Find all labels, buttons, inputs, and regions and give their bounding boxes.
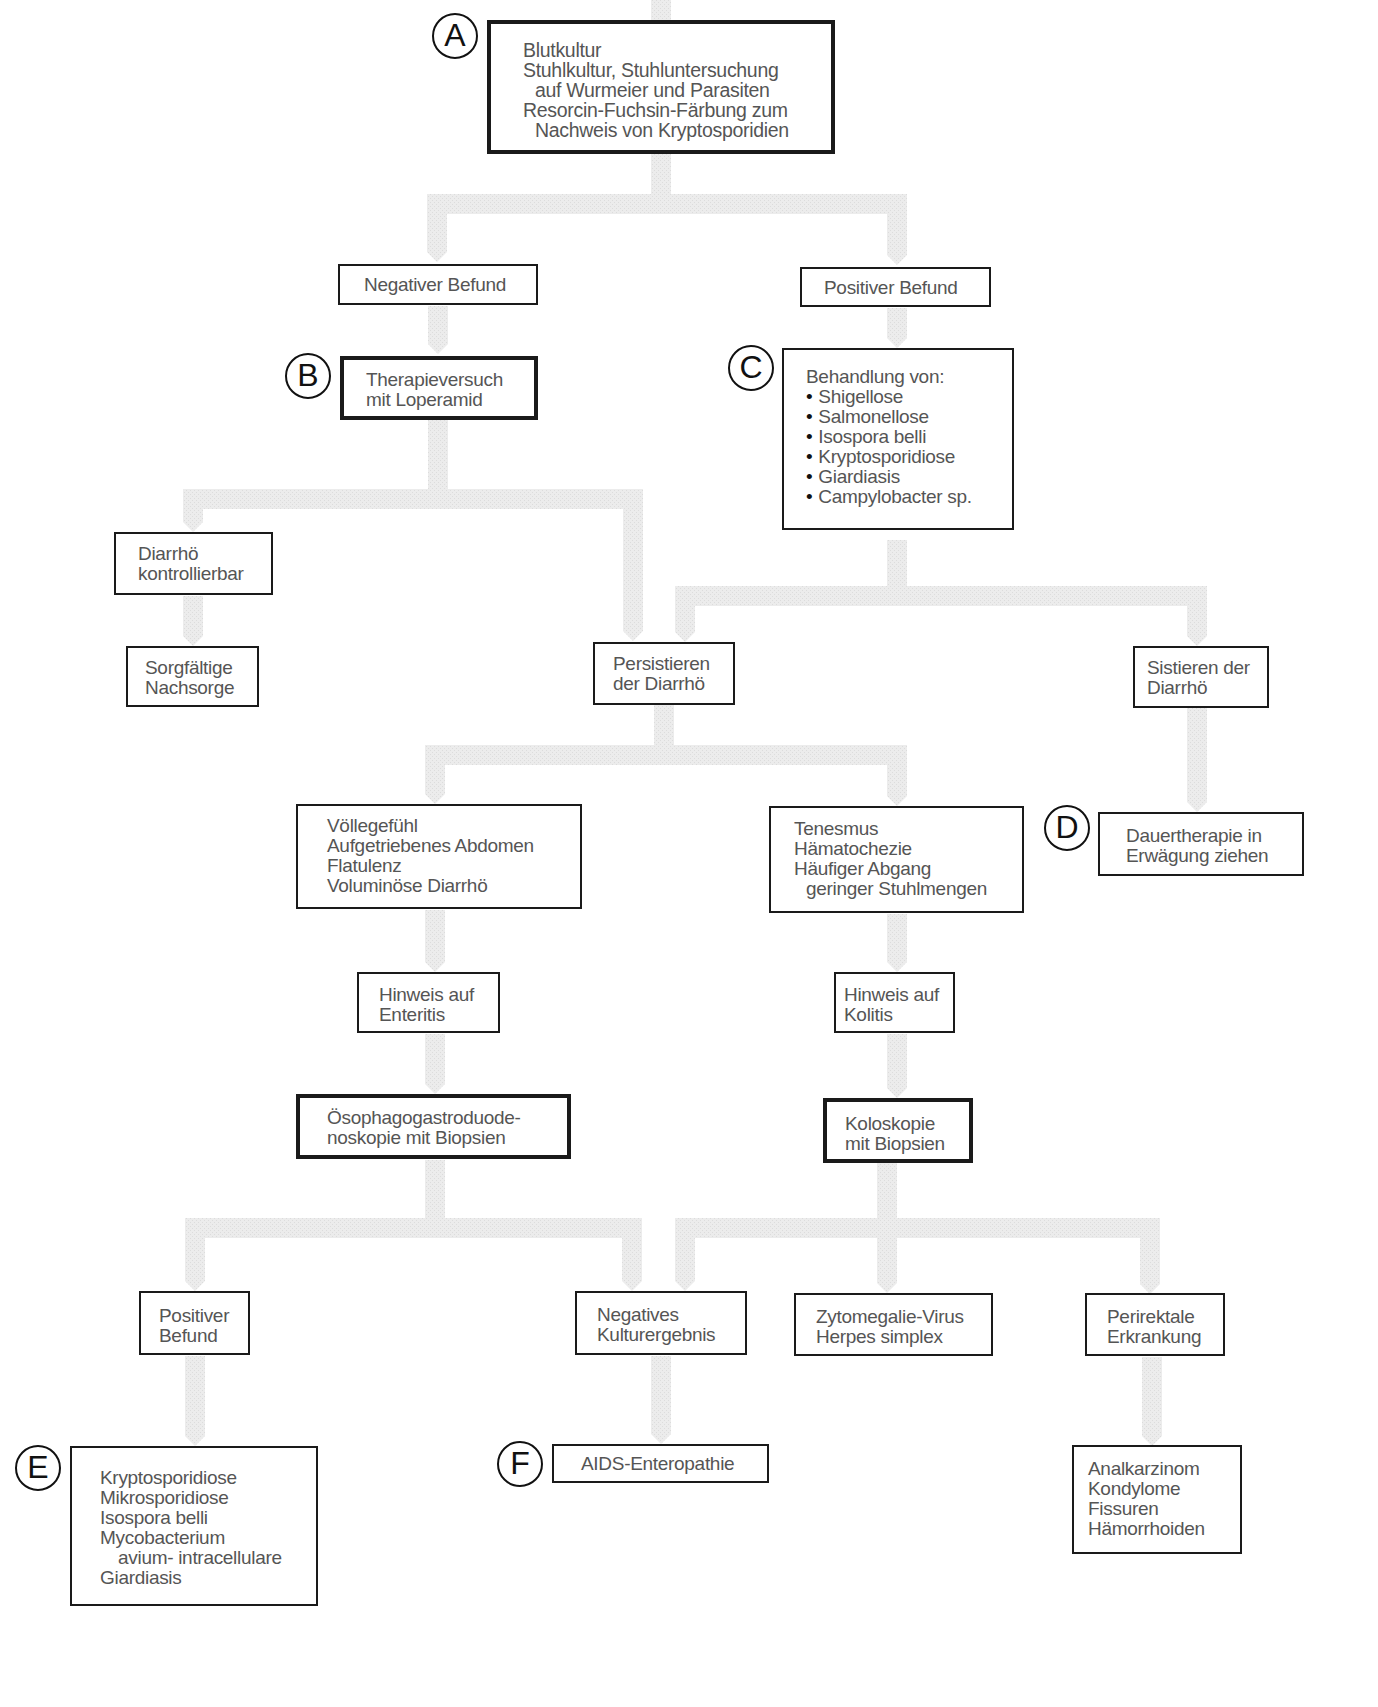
node-text: Stuhlkultur, Stuhluntersuchung (523, 60, 831, 80)
node-positive-finding-biopsy: Positiver Befund (139, 1291, 250, 1355)
node-text: AIDS-Enteropathie (581, 1454, 767, 1474)
node-text: Herpes simplex (816, 1327, 991, 1347)
marker-e: E (15, 1445, 61, 1491)
node-text: Sorgfältige (145, 658, 257, 678)
node-enteritis-symptoms: Völlegefühl Aufgetriebenes Abdomen Flatu… (296, 804, 582, 909)
node-aids-enteropathy: AIDS-Enteropathie (552, 1444, 769, 1483)
node-text: Koloskopie (845, 1114, 969, 1134)
marker-a: A (432, 13, 478, 59)
node-negative-culture: Negatives Kulturergebnis (575, 1291, 747, 1355)
node-text: noskopie mit Biopsien (327, 1128, 567, 1148)
marker-f: F (497, 1441, 543, 1487)
marker-d: D (1044, 805, 1090, 851)
node-text: Kolitis (844, 1005, 953, 1025)
node-text: Kryptosporidiose (100, 1468, 316, 1488)
node-text: Mikrosporidiose (100, 1488, 316, 1508)
node-text: kontrollierbar (138, 564, 271, 584)
node-diagnostics: Blutkultur Stuhlkultur, Stuhluntersuchun… (487, 20, 835, 154)
node-text: mit Loperamid (366, 390, 534, 410)
node-text: Diarrhö (1147, 678, 1267, 698)
node-text: Perirektale (1107, 1307, 1223, 1327)
node-text: Dauertherapie in (1126, 826, 1302, 846)
node-text: Völlegefühl (327, 816, 580, 836)
node-text: Nachsorge (145, 678, 257, 698)
treatment-item: Shigellose (806, 387, 1012, 407)
marker-c: C (728, 345, 774, 391)
treatment-item: Kryptosporidiose (806, 447, 1012, 467)
node-long-term-therapy: Dauertherapie in Erwägung ziehen (1098, 812, 1304, 876)
node-text: Hinweis auf (379, 985, 498, 1005)
node-enteritis-hint: Hinweis auf Enteritis (357, 972, 500, 1033)
node-diarrhea-stops: Sistieren der Diarrhö (1133, 646, 1269, 708)
node-text: Befund (159, 1326, 248, 1346)
node-negative-finding: Negativer Befund (338, 264, 538, 305)
node-text: Analkarzinom (1088, 1459, 1240, 1479)
marker-b: B (285, 353, 331, 399)
node-diarrhea-controllable: Diarrhö kontrollierbar (114, 532, 273, 595)
node-text: Hinweis auf (844, 985, 953, 1005)
node-pathogens: Kryptosporidiose Mikrosporidiose Isospor… (70, 1446, 318, 1606)
node-colonoscopy-biopsy: Koloskopie mit Biopsien (823, 1098, 973, 1163)
node-perirectal: Perirektale Erkrankung (1085, 1293, 1225, 1356)
node-text: Enteritis (379, 1005, 498, 1025)
node-text: Positiver Befund (824, 278, 989, 298)
node-text: Kulturergebnis (597, 1325, 745, 1345)
node-text: Fissuren (1088, 1499, 1240, 1519)
node-cmv-hsv: Zytomegalie-Virus Herpes simplex (794, 1293, 993, 1356)
node-text: Flatulenz (327, 856, 580, 876)
node-text: Häufiger Abgang (794, 859, 1022, 879)
node-text: geringer Stuhlmengen (794, 879, 1022, 899)
node-text: Aufgetriebenes Abdomen (327, 836, 580, 856)
node-text: Erkrankung (1107, 1327, 1223, 1347)
node-text: Mycobacterium (100, 1528, 316, 1548)
node-text: Therapieversuch (366, 370, 534, 390)
node-text: Hämatochezie (794, 839, 1022, 859)
node-text: Hämorrhoiden (1088, 1519, 1240, 1539)
node-perirectal-findings: Analkarzinom Kondylome Fissuren Hämorrho… (1072, 1445, 1242, 1554)
node-positive-finding: Positiver Befund (800, 267, 991, 307)
node-treatment: Behandlung von: Shigellose Salmonellose … (782, 348, 1014, 530)
node-text: Tenesmus (794, 819, 1022, 839)
node-text: Diarrhö (138, 544, 271, 564)
node-text: Negatives (597, 1305, 745, 1325)
node-text: Sistieren der (1147, 658, 1267, 678)
node-text: Ösophagogastroduode- (327, 1108, 567, 1128)
treatment-item: Isospora belli (806, 427, 1012, 447)
node-text: avium- intracellulare (100, 1548, 316, 1568)
node-careful-followup: Sorgfältige Nachsorge (126, 646, 259, 707)
node-text: mit Biopsien (845, 1134, 969, 1154)
node-text: Nachweis von Kryptosporidien (523, 120, 831, 140)
node-title: Behandlung von: (806, 367, 1012, 387)
node-colitis-symptoms: Tenesmus Hämatochezie Häufiger Abgang ge… (769, 806, 1024, 913)
node-text: Erwägung ziehen (1126, 846, 1302, 866)
node-text: Kondylome (1088, 1479, 1240, 1499)
node-text: Giardiasis (100, 1568, 316, 1588)
connector-arrows (183, 0, 1207, 1446)
treatment-item: Giardiasis (806, 467, 1012, 487)
node-text: Resorcin-Fuchsin-Färbung zum (523, 100, 831, 120)
node-colitis-hint: Hinweis auf Kolitis (834, 972, 955, 1033)
node-text: Zytomegalie-Virus (816, 1307, 991, 1327)
node-text: Persistieren (613, 654, 733, 674)
node-text: Voluminöse Diarrhö (327, 876, 580, 896)
node-text: Blutkultur (523, 40, 831, 60)
treatment-item: Salmonellose (806, 407, 1012, 427)
node-text: der Diarrhö (613, 674, 733, 694)
node-text: Isospora belli (100, 1508, 316, 1528)
node-text: auf Wurmeier und Parasiten (523, 80, 831, 100)
node-text: Negativer Befund (364, 275, 536, 295)
treatment-item: Campylobacter sp. (806, 487, 1012, 507)
node-egd-biopsy: Ösophagogastroduode- noskopie mit Biopsi… (296, 1094, 571, 1159)
node-text: Positiver (159, 1306, 248, 1326)
node-persistent-diarrhea: Persistieren der Diarrhö (593, 642, 735, 705)
node-therapy-trial: Therapieversuch mit Loperamid (340, 356, 538, 420)
